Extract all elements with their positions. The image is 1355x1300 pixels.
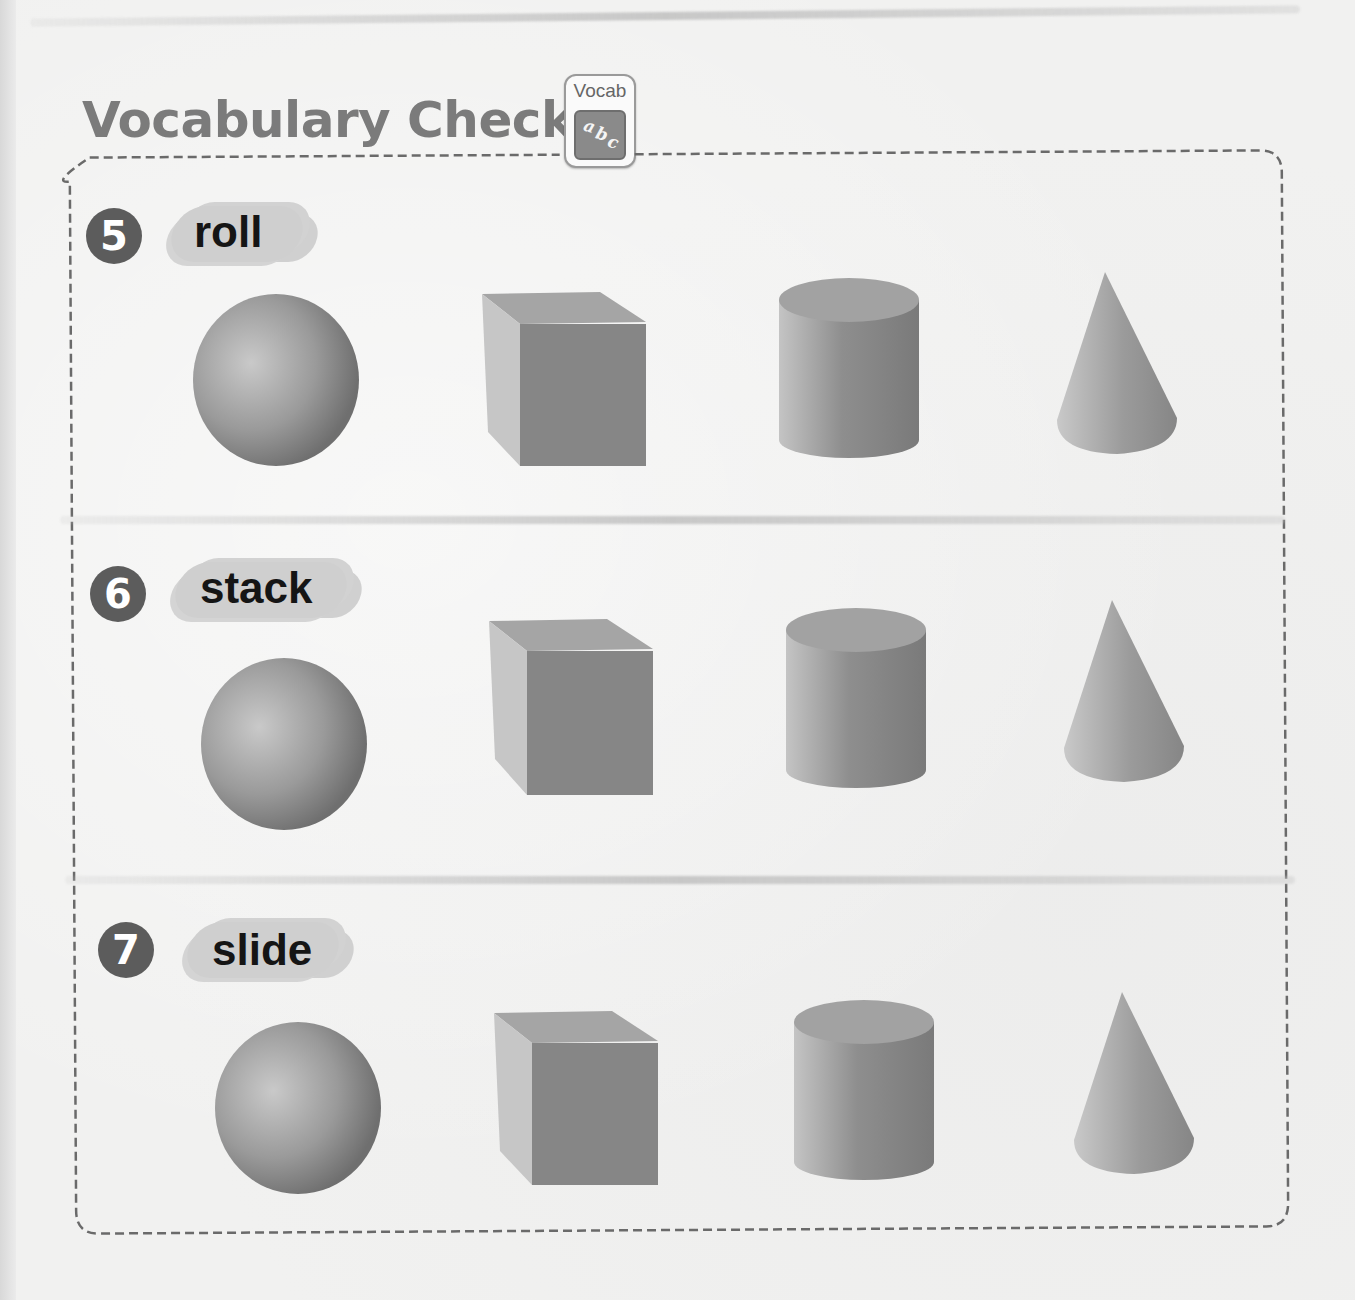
vocab-word: slide [212,922,312,978]
cube-shape[interactable] [492,1011,662,1187]
cone-shape[interactable] [1055,270,1180,456]
vocab-word: roll [194,204,262,260]
item-number-badge: 7 [98,922,154,978]
sphere-shape[interactable] [212,1020,387,1198]
section-divider [60,516,1285,524]
cone-shape[interactable] [1062,598,1187,784]
item-number-badge: 5 [86,208,142,264]
cylinder-shape[interactable] [790,998,940,1184]
sphere-shape[interactable] [190,292,365,470]
cylinder-shape[interactable] [782,606,932,792]
item-number-badge: 6 [90,566,146,622]
sphere-shape[interactable] [198,656,373,834]
cylinder-shape[interactable] [775,276,925,462]
cone-shape[interactable] [1072,990,1197,1176]
vocab-badge-label: Vocab [566,80,634,102]
page-binding-edge [0,0,16,1300]
cube-shape[interactable] [487,619,657,797]
cube-shape[interactable] [480,292,650,468]
page-title: Vocabulary Check [82,90,574,150]
section-divider [65,876,1295,884]
vocab-word: stack [200,560,313,616]
